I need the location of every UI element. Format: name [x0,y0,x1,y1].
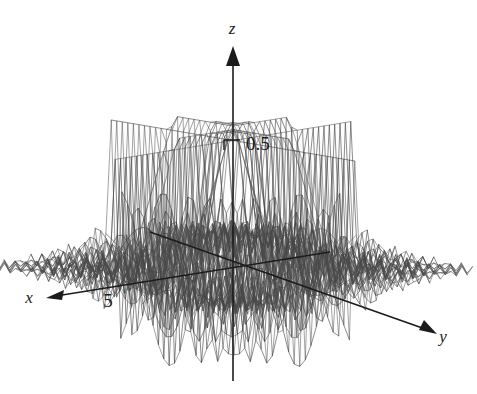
surface-mesh [0,117,473,367]
z-axis-label: z [228,19,236,38]
x-axis-label: x [24,288,33,307]
x-tick-label-5: 5 [103,290,113,311]
y-axis-label: y [437,327,447,346]
z-axis-arrowhead [226,46,240,66]
z-tick-label-0-5: 0.5 [246,133,270,154]
x-axis-arrowhead [46,290,64,300]
y-axis-arrowhead [419,320,437,334]
surface-plot-figure: z x y 0.5 5 [0,0,477,394]
